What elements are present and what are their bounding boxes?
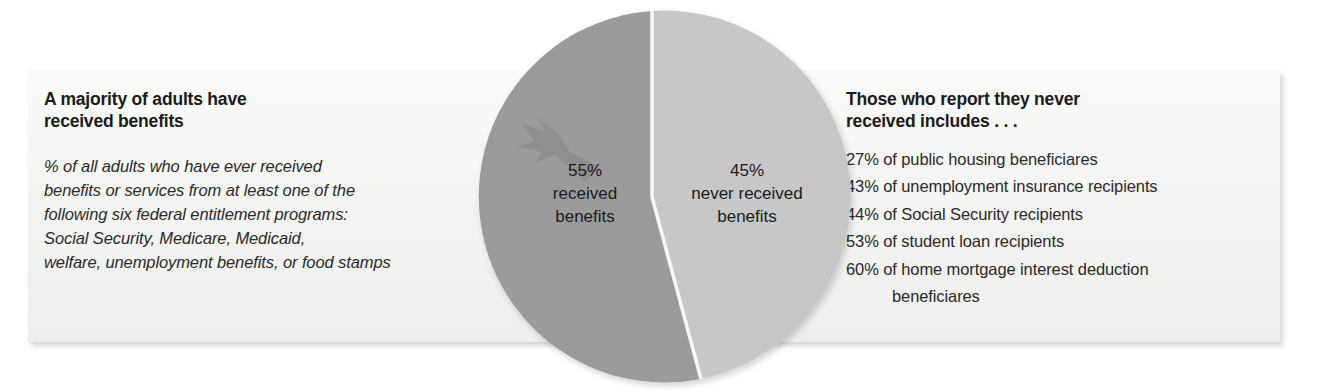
left-text-panel: A majority of adults have received benef… xyxy=(44,88,434,274)
stat-list: 27% of public housing beneficiares 43% o… xyxy=(846,146,1276,310)
pie-label-received: 55% received benefits xyxy=(520,160,650,228)
stat-text: of home mortgage interest deduction xyxy=(879,260,1149,278)
list-item-continuation: beneficiares xyxy=(846,283,1276,310)
right-panel-heading: Those who report they never received inc… xyxy=(846,88,1276,132)
left-panel-subtext: % of all adults who have ever received b… xyxy=(44,154,434,274)
stat-text: of public housing beneficiares xyxy=(879,150,1098,168)
stat-text: of unemployment insurance recipients xyxy=(879,177,1158,195)
pie-label-never-received: 45% never received benefits xyxy=(662,160,832,228)
stat-text: of Social Security recipients xyxy=(879,205,1083,223)
list-item: 44% of Social Security recipients xyxy=(846,201,1276,228)
stat-text: of student loan recipients xyxy=(879,232,1064,250)
left-panel-heading: A majority of adults have received benef… xyxy=(44,88,434,132)
list-item: 60% of home mortgage interest deduction xyxy=(846,256,1276,283)
infographic-root: A majority of adults have received benef… xyxy=(0,0,1320,392)
right-text-panel: Those who report they never received inc… xyxy=(846,88,1276,310)
list-item: 43% of unemployment insurance recipients xyxy=(846,173,1276,200)
list-item: 53% of student loan recipients xyxy=(846,228,1276,255)
list-item: 27% of public housing beneficiares xyxy=(846,146,1276,173)
